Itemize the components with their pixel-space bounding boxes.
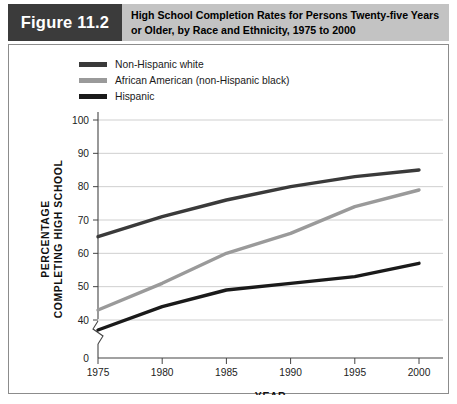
y-tick-label: 100: [72, 115, 89, 126]
y-tick-label: 90: [78, 148, 90, 159]
chart-y-tick-labels: 4050607080901000: [72, 115, 89, 364]
chart-series-lines: [98, 170, 419, 330]
chart-x-tick-marks: [98, 358, 419, 364]
figure-title: High School Completion Rates for Persons…: [131, 8, 440, 36]
chart-plot-area: 4050607080901000 19751980198519901995200…: [9, 45, 450, 395]
y-tick-label: 40: [78, 315, 90, 326]
x-tick-label: 1975: [87, 367, 110, 378]
x-tick-label: 1980: [151, 367, 174, 378]
x-tick-label: 1985: [215, 367, 238, 378]
figure-body-panel: Non-Hispanic white African American (non…: [8, 44, 449, 394]
figure-container: Figure 11.2 High School Completion Rates…: [0, 0, 457, 404]
x-axis-title: YEAR: [255, 391, 286, 395]
y-axis-title-line1: PERCENTAGE: [40, 200, 51, 277]
x-tick-label: 2000: [408, 367, 431, 378]
chart-x-tick-labels: 197519801985199019952000: [87, 367, 431, 378]
chart-axes: [93, 112, 443, 358]
series-line: [98, 190, 419, 310]
figure-header: Figure 11.2 High School Completion Rates…: [8, 4, 449, 41]
y-axis-title-line2: COMPLETING HIGH SCHOOL: [53, 160, 64, 319]
x-tick-label: 1995: [343, 367, 366, 378]
figure-number-badge: Figure 11.2: [8, 4, 122, 41]
line-chart-svg: 4050607080901000 19751980198519901995200…: [9, 45, 450, 395]
y-tick-label: 80: [78, 181, 90, 192]
figure-number-label: Figure 11.2: [21, 13, 109, 32]
x-tick-label: 1990: [279, 367, 302, 378]
y-tick-label: 60: [78, 248, 90, 259]
figure-title-band: High School Completion Rates for Persons…: [122, 4, 449, 41]
y-tick-label-zero: 0: [83, 353, 89, 364]
y-tick-label: 50: [78, 281, 90, 292]
y-tick-label: 70: [78, 215, 90, 226]
